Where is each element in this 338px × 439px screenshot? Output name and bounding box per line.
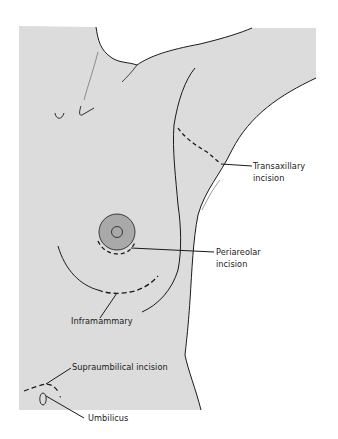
- transaxillary-label-line2: incision: [253, 173, 305, 183]
- areola: [99, 214, 135, 250]
- inframammary-label: Inframammary: [71, 316, 133, 326]
- inframammary-label-line1: Inframammary: [71, 316, 133, 326]
- transaxillary-label-line1: Transaxillary: [253, 161, 305, 171]
- supraumbilical-label-line1: Supraumbilical incision: [72, 362, 168, 372]
- periareolar-label-line2: incision: [216, 259, 261, 269]
- transaxillary-label: Transaxillary incision: [253, 161, 305, 183]
- umbilicus-label: Umbilicus: [88, 413, 128, 423]
- supraumbilical-dot: [60, 396, 61, 398]
- supraumbilical-label: Supraumbilical incision: [72, 362, 168, 372]
- incision-diagram: [0, 0, 338, 439]
- periareolar-label-line1: Periareolar: [216, 247, 261, 257]
- transaxillary-leader: [221, 164, 252, 166]
- umbilicus-label-line1: Umbilicus: [88, 413, 128, 423]
- periareolar-label: Periareolar incision: [216, 247, 261, 269]
- torso-silhouette: [19, 26, 316, 410]
